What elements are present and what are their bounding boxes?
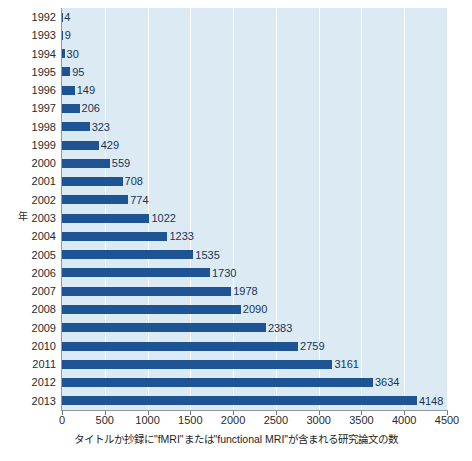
bar-value-label: 3634 — [373, 373, 399, 391]
bar-track: 708 — [62, 172, 472, 190]
bar-track: 206 — [62, 99, 472, 117]
chart-row: 1999429 — [0, 136, 472, 154]
bar-value-label: 1978 — [231, 282, 257, 300]
chart-row: 2001708 — [0, 172, 472, 190]
bar-value-label: 3161 — [332, 355, 358, 373]
chart-row: 20082090 — [0, 300, 472, 318]
bar-track: 1730 — [62, 264, 472, 282]
bar-track: 429 — [62, 136, 472, 154]
chart-row: 20051535 — [0, 246, 472, 264]
y-axis-tick-label: 2011 — [0, 355, 56, 373]
x-axis-tick-label: 2500 — [264, 414, 288, 426]
x-axis-tick-label: 1500 — [178, 414, 202, 426]
y-axis-tick-label: 1994 — [0, 45, 56, 63]
bar — [62, 268, 210, 277]
chart-row: 20102759 — [0, 337, 472, 355]
bar — [62, 195, 128, 204]
y-axis-tick-label: 2005 — [0, 246, 56, 264]
chart-row: 20134148 — [0, 392, 472, 410]
chart-row: 2002774 — [0, 191, 472, 209]
bar — [62, 287, 231, 296]
bar-value-label: 1233 — [167, 227, 193, 245]
y-axis-tick-label: 2008 — [0, 300, 56, 318]
bar-track: 95 — [62, 63, 472, 81]
bar-value-label: 323 — [90, 118, 110, 136]
chart-row: 2000559 — [0, 154, 472, 172]
bar — [62, 360, 332, 369]
bar-track: 2759 — [62, 337, 472, 355]
bar-value-label: 9 — [63, 26, 71, 44]
bar-chart-figure: 年 タイトルか抄録に"fMRI"または"functional MRI"が含まれる… — [0, 0, 472, 461]
bar-value-label: 4 — [62, 8, 70, 26]
x-axis-line — [61, 410, 448, 411]
bar — [62, 104, 80, 113]
chart-row: 19939 — [0, 26, 472, 44]
chart-row: 20061730 — [0, 264, 472, 282]
bar-value-label: 149 — [75, 81, 95, 99]
bar-value-label: 708 — [123, 172, 143, 190]
y-axis-tick-label: 1992 — [0, 8, 56, 26]
bar-value-label: 4148 — [417, 392, 443, 410]
y-axis-tick-label: 1998 — [0, 118, 56, 136]
bar — [62, 323, 266, 332]
bar-value-label: 1535 — [193, 246, 219, 264]
bar-value-label: 30 — [65, 45, 79, 63]
chart-row: 20071978 — [0, 282, 472, 300]
bar — [62, 141, 99, 150]
y-axis-tick-label: 2001 — [0, 172, 56, 190]
x-axis-tick-label: 3000 — [306, 414, 330, 426]
chart-row: 1998323 — [0, 118, 472, 136]
bar — [62, 159, 110, 168]
bar-value-label: 559 — [110, 154, 130, 172]
y-axis-tick-label: 1996 — [0, 81, 56, 99]
bar — [62, 305, 241, 314]
y-axis-tick-label: 1997 — [0, 99, 56, 117]
bar-track: 559 — [62, 154, 472, 172]
chart-row: 199430 — [0, 45, 472, 63]
bar-track: 3634 — [62, 373, 472, 391]
bar — [62, 396, 417, 405]
x-axis-tick-label: 0 — [59, 414, 65, 426]
bar-track: 1022 — [62, 209, 472, 227]
y-axis-tick-label: 2003 — [0, 209, 56, 227]
bar-track: 9 — [62, 26, 472, 44]
bar — [62, 378, 373, 387]
bar-value-label: 2090 — [241, 300, 267, 318]
y-axis-tick-label: 2000 — [0, 154, 56, 172]
chart-row: 20092383 — [0, 319, 472, 337]
x-axis-tick-label: 3500 — [349, 414, 373, 426]
x-axis-tick-label: 4000 — [392, 414, 416, 426]
x-axis-title: タイトルか抄録に"fMRI"または"functional MRI"が含まれる研究… — [0, 431, 472, 446]
bar-track: 2383 — [62, 319, 472, 337]
bar-track: 1233 — [62, 227, 472, 245]
bar-value-label: 774 — [128, 191, 148, 209]
bar — [62, 177, 123, 186]
bar — [62, 214, 149, 223]
bar-value-label: 1022 — [149, 209, 175, 227]
bar — [62, 67, 70, 76]
y-axis-tick-label: 2007 — [0, 282, 56, 300]
bar-track: 323 — [62, 118, 472, 136]
bar-value-label: 1730 — [210, 264, 236, 282]
bar-value-label: 2383 — [266, 319, 292, 337]
bar-value-label: 95 — [70, 63, 84, 81]
bar — [62, 250, 193, 259]
y-axis-tick-label: 2010 — [0, 337, 56, 355]
bar — [62, 342, 298, 351]
y-axis-tick-label: 2012 — [0, 373, 56, 391]
bar-track: 3161 — [62, 355, 472, 373]
chart-row: 20031022 — [0, 209, 472, 227]
bar-value-label: 206 — [80, 99, 100, 117]
chart-row: 1996149 — [0, 81, 472, 99]
x-axis-tick-label: 1000 — [135, 414, 159, 426]
bar-track: 774 — [62, 191, 472, 209]
bar-value-label: 429 — [99, 136, 119, 154]
bar-track: 1535 — [62, 246, 472, 264]
chart-row: 19924 — [0, 8, 472, 26]
y-axis-tick-label: 2013 — [0, 392, 56, 410]
bar-track: 30 — [62, 45, 472, 63]
y-axis-tick-label: 2006 — [0, 264, 56, 282]
y-axis-tick-label: 1993 — [0, 26, 56, 44]
y-axis-tick-label: 1999 — [0, 136, 56, 154]
bar — [62, 86, 75, 95]
